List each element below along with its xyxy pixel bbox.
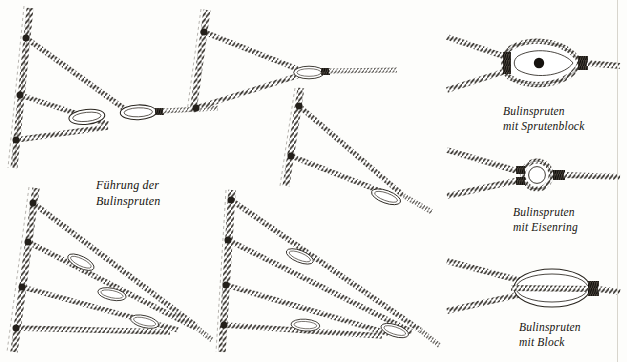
incoming-rope-upper — [447, 150, 520, 172]
caption-sprutenblock: Bulinspruten mit Sprutenblock — [503, 104, 584, 133]
stay-attachment-knot — [201, 29, 208, 36]
incoming-rope-upper — [447, 261, 522, 281]
bridle-legs — [16, 38, 133, 140]
stay-attachment-knot — [288, 153, 295, 160]
stay-attachment-knot — [13, 137, 20, 144]
ring-bore — [529, 167, 546, 184]
bridle-legs — [224, 200, 420, 336]
incoming-rope-lower — [447, 70, 509, 90]
stay-attachment-knot — [228, 197, 235, 204]
stay-attachment-knot — [19, 284, 26, 291]
incoming-rope-lower — [447, 180, 520, 196]
stay-attachment-knot — [23, 35, 30, 42]
illustration-plate: Führung der Bulinspruten Bulinspruten mi… — [0, 0, 627, 362]
seizing — [588, 281, 599, 296]
stay-attachment-knot — [223, 282, 230, 289]
detail-sprutenblock — [447, 37, 620, 90]
standing-part — [329, 70, 397, 71]
stay-attachment-knot — [30, 200, 37, 207]
caption-eisenring: Bulinspruten mit Eisenring — [513, 205, 578, 234]
stay-attachment-knot — [17, 92, 24, 99]
thimble — [294, 66, 325, 79]
figure-bridle-four-leg-lower-left — [7, 187, 212, 352]
bridle-legs — [16, 203, 196, 332]
standing-part — [196, 327, 212, 340]
incoming-rope-upper — [447, 37, 509, 58]
standing-part — [587, 63, 620, 66]
stay-attachment-knot — [193, 105, 200, 112]
plate-title: Führung der Bulinspruten — [96, 178, 160, 209]
bridle-legs — [196, 32, 300, 108]
figure-bridle-four-leg-lower-center — [216, 190, 440, 352]
bridle-legs — [291, 106, 404, 196]
standing-part — [564, 175, 620, 177]
plate-right-rule — [617, 0, 618, 362]
figure-bridle-three-leg-upper-left — [8, 6, 218, 168]
center-pin — [534, 58, 544, 68]
stay-attachment-knot — [221, 322, 228, 329]
figure-bridle-two-leg-mid-center — [280, 88, 432, 212]
standing-part — [420, 330, 440, 346]
seizing — [321, 68, 330, 75]
block-rope — [511, 288, 592, 289]
seizing — [155, 108, 164, 115]
figure-bridle-two-leg-upper-center — [187, 9, 397, 112]
seizing — [578, 56, 588, 70]
caption-block: Bulinspruten mit Block — [519, 320, 581, 349]
stay-rope — [8, 6, 30, 168]
seizing — [516, 166, 525, 174]
thimble — [129, 312, 160, 330]
stay-attachment-knot — [296, 103, 303, 110]
standing-part — [404, 196, 432, 212]
detail-block — [447, 261, 620, 311]
detail-eisenring — [447, 150, 620, 196]
seizing — [553, 170, 565, 180]
rigging-drawing — [0, 0, 627, 362]
stay-attachment-knot — [25, 239, 32, 246]
stay-attachment-knot — [225, 237, 232, 244]
throat-seizing — [503, 52, 511, 74]
stay-rope — [187, 9, 207, 112]
incoming-rope-lower — [447, 294, 522, 311]
stay-attachment-knot — [13, 325, 20, 332]
seizing — [516, 177, 525, 185]
